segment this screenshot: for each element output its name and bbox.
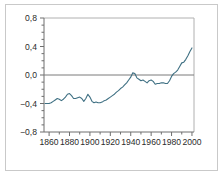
x-tick-label: 2000 <box>182 137 201 147</box>
figure-frame: −0,8−0,40,00,40,8 1860188019001920194019… <box>5 4 218 171</box>
x-tick-label: 1980 <box>162 137 181 147</box>
y-tick-label: 0,8 <box>25 13 37 23</box>
y-tick-label: 0,4 <box>25 42 37 52</box>
x-tick-label: 1940 <box>121 137 140 147</box>
y-tick-label: −0,8 <box>20 127 37 137</box>
x-tick-label: 1880 <box>60 137 79 147</box>
line-chart: −0,8−0,40,00,40,8 1860188019001920194019… <box>6 5 217 170</box>
y-tick-label: −0,4 <box>20 99 37 109</box>
x-tick-label: 1960 <box>142 137 161 147</box>
y-axis-tick-labels: −0,8−0,40,00,40,8 <box>20 13 37 137</box>
x-tick-label: 1900 <box>80 137 99 147</box>
x-tick-label: 1860 <box>40 137 59 147</box>
x-tick-label: 1920 <box>101 137 120 147</box>
x-axis-tick-labels: 18601880190019201940196019802000 <box>40 137 202 147</box>
y-tick-label: 0,0 <box>25 70 37 80</box>
